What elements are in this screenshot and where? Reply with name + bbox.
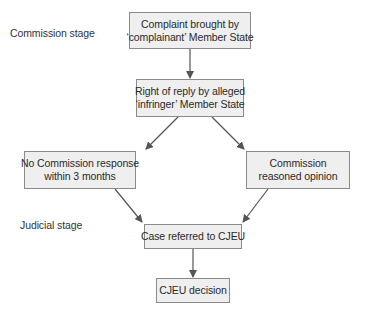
node-complaint-line2: ‘complainant’ Member State [126,31,253,44]
node-reply: Right of reply by alleged ‘infringer’ Me… [136,79,244,117]
node-reply-line2: ‘infringer’ Member State [135,98,245,111]
arrow-reasoned-opinion-to-referred [243,189,268,222]
judicial-stage-label: Judicial stage [20,219,82,231]
node-referred-line1: Case referred to CJEU [141,230,245,243]
node-referred: Case referred to CJEU [144,224,242,249]
node-complaint-line1: Complaint brought by [126,18,253,31]
node-reasoned-opinion: Commission reasoned opinion [246,151,350,189]
node-no-response: No Commission response within 3 months [24,151,136,189]
arrow-no-response-to-referred [115,189,142,222]
node-reasoned-opinion-line2: reasoned opinion [259,170,338,183]
arrow-reply-to-no-response [146,117,178,149]
arrow-reply-to-reasoned-opinion [212,117,244,149]
node-complaint: Complaint brought by ‘complainant’ Membe… [129,12,251,49]
node-reply-line1: Right of reply by alleged [135,85,245,98]
node-decision-line1: CJEU decision [159,284,227,297]
commission-stage-label: Commission stage [10,27,95,39]
node-reasoned-opinion-line1: Commission [259,157,338,170]
node-no-response-line1: No Commission response [21,157,139,170]
node-decision: CJEU decision [156,278,230,303]
node-no-response-line2: within 3 months [21,170,139,183]
